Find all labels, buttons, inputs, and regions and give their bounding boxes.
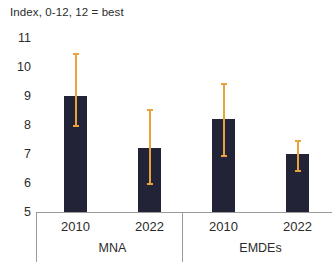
y-tick-label: 7 [4, 148, 31, 160]
bar-chart: Index, 0-12, 12 = best 567891011 2010202… [0, 0, 332, 262]
y-tick-label: 8 [4, 119, 31, 131]
error-bar [75, 53, 77, 126]
error-bar [223, 83, 225, 156]
error-bar-cap [295, 140, 301, 142]
y-tick-label: 5 [4, 206, 31, 218]
axis-baseline [36, 212, 332, 213]
error-bar [149, 109, 151, 183]
y-tick-label: 6 [4, 177, 31, 189]
y-tick-label: 9 [4, 90, 31, 102]
error-bar-cap [73, 53, 79, 55]
axis-left-spine [36, 212, 37, 262]
error-bar-cap [295, 170, 301, 172]
error-bar-cap [73, 125, 79, 127]
x-tick-label: 2022 [120, 219, 180, 234]
x-tick-label: 2010 [194, 219, 254, 234]
error-bar-cap [221, 83, 227, 85]
group-separator [182, 212, 183, 262]
group-label: EMDEs [201, 241, 321, 255]
error-bar-cap [221, 155, 227, 157]
x-tick-label: 2010 [46, 219, 106, 234]
error-bar-cap [147, 109, 153, 111]
y-tick-label: 11 [4, 32, 31, 44]
error-bar [297, 140, 299, 170]
error-bar-cap [147, 183, 153, 185]
y-tick-label: 10 [4, 61, 31, 73]
group-label: MNA [53, 241, 173, 255]
x-tick-label: 2022 [268, 219, 328, 234]
